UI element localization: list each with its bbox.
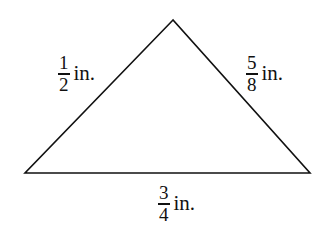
bottom-side-numerator: 3 [158, 184, 170, 202]
left-side-unit: in. [74, 63, 96, 84]
right-side-fraction: 5 8 [246, 54, 258, 94]
left-side-fraction: 1 2 [58, 54, 70, 94]
right-side-numerator: 5 [246, 54, 258, 72]
left-side-numerator: 1 [58, 54, 70, 72]
bottom-side-unit: in. [174, 193, 196, 214]
bottom-side-denominator: 4 [158, 206, 170, 224]
left-side-label: 1 2 in. [58, 54, 95, 94]
triangle-shape [25, 20, 310, 173]
bottom-side-fraction: 3 4 [158, 184, 170, 224]
bottom-side-label: 3 4 in. [158, 184, 195, 224]
right-side-denominator: 8 [246, 76, 258, 94]
right-side-unit: in. [262, 63, 284, 84]
right-side-label: 5 8 in. [246, 54, 283, 94]
left-side-denominator: 2 [58, 76, 70, 94]
